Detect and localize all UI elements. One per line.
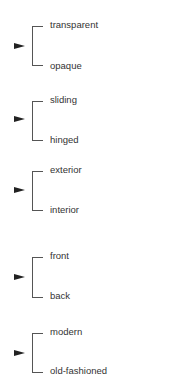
pointer-arrow-icon xyxy=(14,187,25,193)
option-top: modern xyxy=(50,326,82,338)
option-bottom: opaque xyxy=(50,60,82,72)
bracket-tick-bottom xyxy=(32,65,43,66)
pointer-arrow-icon xyxy=(14,350,25,356)
bracket-line xyxy=(32,257,33,297)
bracket-line xyxy=(32,171,33,210)
bracket-tick-bottom xyxy=(32,297,43,298)
bracket-tick-top xyxy=(32,26,43,27)
option-top: transparent xyxy=(50,19,98,31)
option-bottom: interior xyxy=(50,204,79,216)
option-bottom: hinged xyxy=(50,134,79,146)
bracket-line xyxy=(32,101,33,140)
option-top: front xyxy=(50,250,69,262)
bracket-line xyxy=(32,26,33,65)
bracket-tick-top xyxy=(32,333,43,334)
option-top: exterior xyxy=(50,164,82,176)
bracket-tick-bottom xyxy=(32,210,43,211)
pointer-arrow-icon xyxy=(14,116,25,122)
bracket-tick-bottom xyxy=(32,140,43,141)
option-bottom: old-fashioned xyxy=(50,365,107,377)
bracket-line xyxy=(32,333,33,372)
option-bottom: back xyxy=(50,290,70,302)
bracket-tick-top xyxy=(32,171,43,172)
bracket-tick-top xyxy=(32,257,43,258)
bracket-tick-bottom xyxy=(32,372,43,373)
option-top: sliding xyxy=(50,94,77,106)
bracket-tick-top xyxy=(32,101,43,102)
pointer-arrow-icon xyxy=(14,274,25,280)
pointer-arrow-icon xyxy=(14,43,25,49)
